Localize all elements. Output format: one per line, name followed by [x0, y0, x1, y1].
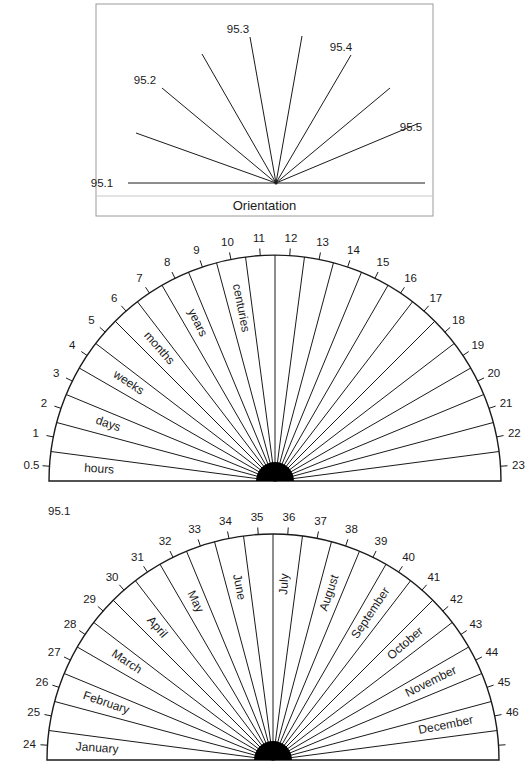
- dial-tick-label: 13: [316, 236, 329, 248]
- dial-tick-label: 35: [251, 511, 264, 523]
- dial-spoke: [246, 257, 275, 481]
- dial-tick-label: 5: [88, 314, 94, 326]
- dial-tick: [44, 715, 51, 716]
- dial-tick-label: 33: [188, 523, 201, 535]
- dial-tick: [198, 539, 200, 546]
- dial-spoke: [244, 536, 273, 760]
- dial-segment-label: February: [81, 688, 131, 717]
- dial-tick: [319, 252, 320, 259]
- dial-segment-label: January: [75, 739, 119, 756]
- orientation-line: [276, 124, 417, 183]
- dial-segment-label: weeks: [110, 367, 147, 398]
- dial-segment-label: June: [230, 573, 249, 602]
- dial-tick-label: 46: [506, 706, 519, 718]
- dial-spoke: [275, 285, 388, 481]
- dial-tick-label: 25: [27, 706, 40, 718]
- dial-tick-label: 8: [164, 256, 170, 268]
- dial-tick: [476, 657, 482, 660]
- dial-tick: [200, 260, 202, 267]
- dial-tick: [228, 531, 229, 538]
- dial-tick-label: 6: [111, 292, 117, 304]
- dial-tick-label: 10: [221, 236, 234, 248]
- dial-segment-label: December: [417, 713, 474, 738]
- dial-spoke: [275, 272, 361, 481]
- dial-tick: [46, 436, 53, 437]
- dial-tick: [495, 715, 502, 716]
- dial-tick: [100, 327, 105, 332]
- dial-tick-label: 19: [471, 339, 484, 351]
- dial-tick-label: 37: [314, 515, 327, 527]
- dial-tick-label: 28: [64, 618, 77, 630]
- dial-tick-label: 38: [345, 523, 358, 535]
- dial-spoke: [275, 263, 333, 481]
- dial-tick: [375, 272, 378, 278]
- dial-tick: [489, 406, 496, 408]
- dial-tick-label: 42: [450, 593, 463, 605]
- dial-spoke: [113, 600, 273, 760]
- dial-tick: [119, 585, 124, 590]
- dial-tick: [230, 252, 231, 259]
- dial-tick: [461, 631, 467, 635]
- figure-label: 95.1: [48, 505, 70, 517]
- orientation-lines: [128, 36, 425, 185]
- dial-tick-label: 0.5: [24, 459, 40, 471]
- dial-spoke: [275, 395, 484, 481]
- orientation-panel: 95.195.295.395.495.5 Orientation: [91, 4, 433, 216]
- dial-tick: [79, 631, 85, 635]
- dial-tick-label: 27: [48, 646, 61, 658]
- dial-tick-label: 24: [23, 738, 36, 750]
- dial-tick: [445, 327, 450, 332]
- dial-tick-label: 21: [500, 397, 513, 409]
- dial-tick-label: 18: [452, 314, 465, 326]
- orientation-line-labels: 95.195.295.395.495.5: [91, 23, 422, 189]
- dial-spoke: [275, 452, 499, 481]
- dial-spoke: [273, 647, 469, 760]
- orientation-line: [162, 88, 276, 183]
- orientation-box-frame: [96, 4, 433, 216]
- dial-tick: [348, 260, 350, 267]
- dial-segment-label: April: [144, 613, 170, 640]
- dial-segment-label: March: [109, 646, 145, 676]
- dial-tick: [146, 287, 150, 293]
- dial-tick-label: 1: [32, 427, 38, 439]
- dial-tick: [487, 685, 494, 687]
- dial-segment-label: months: [141, 329, 177, 368]
- dial-segment-label: years: [185, 306, 211, 339]
- dial-tick-label: 29: [83, 593, 96, 605]
- dial-tick: [121, 306, 126, 311]
- dial-tick-label: 3: [53, 367, 59, 379]
- dial-spoke: [189, 272, 275, 481]
- dial-tick: [81, 352, 87, 356]
- dial-spoke: [273, 702, 491, 760]
- dial-tick: [422, 585, 427, 590]
- dial-tick: [66, 378, 72, 381]
- dial-tick-label: 40: [402, 551, 415, 563]
- dial-spoke: [273, 600, 433, 760]
- dial-tick: [54, 406, 61, 408]
- dial-tick: [463, 352, 469, 356]
- dial-spoke: [273, 731, 497, 760]
- dial-segment-label: hours: [84, 461, 115, 477]
- dial-tick-label: 44: [485, 646, 498, 658]
- dial-tick: [170, 551, 173, 557]
- dial-tick: [144, 566, 148, 572]
- dial-tick: [497, 436, 504, 437]
- dial-spoke: [275, 368, 471, 481]
- dial-tick: [373, 551, 376, 557]
- dial-tick-label: 7: [136, 272, 142, 284]
- dial-tick-label: 34: [219, 515, 232, 527]
- dial-tick: [98, 606, 103, 611]
- orientation-line-label: 95.3: [227, 23, 249, 35]
- dial-tick-label: 22: [508, 427, 521, 439]
- dial-tick: [443, 606, 448, 611]
- dial-tick-label: 26: [36, 676, 49, 688]
- orientation-center-dot: [274, 181, 277, 184]
- dial-tick-label: 36: [283, 511, 296, 523]
- dial-segment-label: August: [316, 572, 341, 613]
- dial-spoke: [273, 536, 302, 760]
- orientation-line: [276, 88, 390, 183]
- dial-tick-label: 41: [427, 571, 440, 583]
- dial-tick-label: 43: [469, 618, 482, 630]
- orientation-line-label: 95.4: [330, 41, 353, 53]
- dial-spoke: [162, 285, 275, 481]
